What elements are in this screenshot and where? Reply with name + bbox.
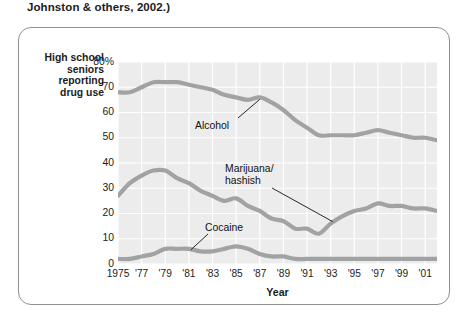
y-tick-label: 30 — [74, 182, 114, 193]
x-tick-label: '93 — [324, 268, 337, 279]
series-label-cocaine: Cocaine — [205, 222, 243, 234]
y-tick-label: 20 — [74, 207, 114, 218]
y-tick-label: 60 — [74, 106, 114, 117]
figure-caption: Johnston & others, 2002.) — [27, 1, 170, 13]
y-tick-label: 10 — [74, 232, 114, 243]
x-tick-label: '87 — [253, 268, 266, 279]
x-tick-label: '85 — [230, 268, 243, 279]
x-axis-tick-labels: 1975'77'79'81'83'85'87'89'91'93'95'97'99… — [118, 268, 437, 284]
x-tick-label: 1975 — [107, 268, 130, 279]
x-tick-label: '91 — [300, 268, 313, 279]
x-tick-label: '99 — [395, 268, 408, 279]
y-axis-tick-labels: 80%706050403020100 — [70, 62, 114, 264]
x-tick-label: '89 — [277, 268, 290, 279]
x-tick-label: '79 — [159, 268, 172, 279]
chart-svg — [118, 62, 437, 264]
plot-area — [118, 62, 437, 264]
y-tick-label: 0 — [74, 258, 114, 269]
x-tick-label: '01 — [419, 268, 432, 279]
series-label-alcohol: Alcohol — [195, 120, 229, 132]
y-tick-label: 70 — [74, 81, 114, 92]
y-tick-label: 80% — [74, 56, 114, 67]
x-tick-label: '81 — [182, 268, 195, 279]
x-tick-label: '97 — [371, 268, 384, 279]
plot-canvas — [118, 62, 437, 264]
series-label-marijuana: Marijuana/hashish — [225, 163, 274, 187]
x-tick-label: '83 — [206, 268, 219, 279]
y-tick-label: 50 — [74, 131, 114, 142]
x-tick-label: '95 — [348, 268, 361, 279]
x-axis-title: Year — [118, 286, 437, 298]
x-tick-label: '77 — [135, 268, 148, 279]
y-tick-label: 40 — [74, 157, 114, 168]
